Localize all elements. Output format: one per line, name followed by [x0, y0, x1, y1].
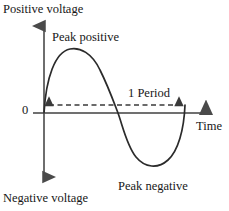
peak-positive-label: Peak positive	[52, 31, 119, 44]
sine-waveform	[44, 49, 185, 166]
peak-negative-label: Peak negative	[118, 180, 188, 193]
negative-voltage-label: Negative voltage	[3, 192, 88, 205]
one-period-label: 1 Period	[128, 87, 170, 100]
zero-level-label: 0	[22, 104, 28, 117]
positive-voltage-label: Positive voltage	[3, 3, 83, 16]
time-axis-label: Time	[196, 120, 222, 133]
waveform-figure: Positive voltage Peak positive 0 1 Perio…	[0, 0, 229, 211]
